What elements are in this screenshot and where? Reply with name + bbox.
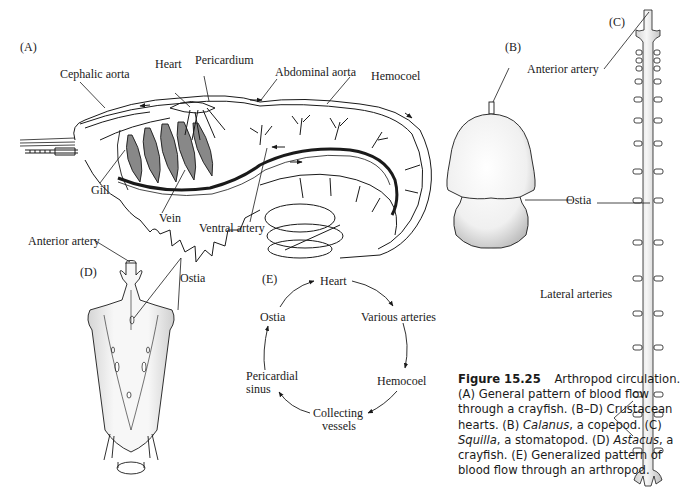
caption-c-rest: , a stomatopod. — [497, 433, 588, 447]
figure-caption: Figure 15.25 Arthropod circulation. (A) … — [458, 372, 694, 478]
figure-number: Figure 15.25 — [458, 372, 541, 386]
panel-label-b: (B) — [505, 40, 521, 55]
caption-b-prefix: (B) — [502, 418, 519, 432]
label-ostia-b: Ostia — [566, 194, 591, 207]
cycle-node-heart: Heart — [320, 275, 347, 288]
caption-d-prefix: (D) — [592, 433, 610, 447]
caption-b-genus: Calanus — [523, 418, 569, 432]
caption-c-genus: Squilla — [458, 433, 497, 447]
panel-label-d: (D) — [80, 265, 97, 280]
label-hemocoel: Hemocoel — [371, 70, 420, 83]
calanus-heart — [447, 68, 572, 248]
label-vein: Vein — [159, 212, 181, 225]
label-anterior-artery-b: Anterior artery — [527, 63, 599, 76]
cycle-node-pericardial-sinus-2: sinus — [246, 383, 271, 396]
label-gill: Gill — [91, 184, 110, 197]
caption-title: Arthropod circulation. — [554, 372, 680, 386]
panel-label-c: (C) — [609, 15, 625, 30]
caption-b-rest: , a copepod. — [569, 418, 641, 432]
cycle-node-ostia: Ostia — [260, 311, 285, 324]
astacus-heart — [88, 240, 181, 474]
label-pericardium: Pericardium — [195, 54, 254, 67]
label-anterior-artery-d: Anterior artery — [28, 235, 100, 248]
cycle-node-hemocoel: Hemocoel — [377, 375, 426, 388]
cycle-node-various-arteries: Various arteries — [361, 311, 436, 324]
caption-d-genus: Astacus — [614, 433, 659, 447]
cycle-node-collecting-vessels-2: vessels — [322, 420, 356, 433]
panel-label-a: (A) — [20, 40, 37, 55]
panel-label-e: (E) — [262, 272, 277, 287]
cycle-arrows — [264, 281, 407, 413]
label-abdominal-aorta: Abdominal aorta — [275, 66, 356, 79]
label-ostia-d: Ostia — [180, 272, 205, 285]
label-cephalic-aorta: Cephalic aorta — [60, 68, 130, 81]
label-ventral-artery: Ventral artery — [199, 222, 265, 235]
label-heart: Heart — [155, 58, 182, 71]
label-lateral-arteries: Lateral arteries — [540, 288, 612, 301]
caption-c-prefix: (C) — [645, 418, 662, 432]
